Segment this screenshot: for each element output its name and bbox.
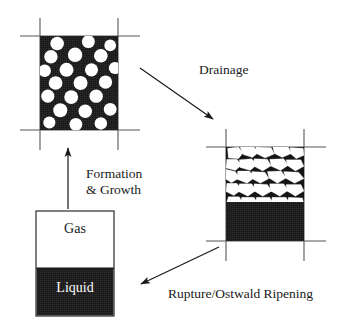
gas-label: Gas: [36, 221, 114, 237]
gas-bubble: [109, 62, 121, 74]
gas-bubble: [104, 103, 117, 116]
rupture-ostwald-label: Rupture/Ostwald Ripening: [168, 286, 313, 302]
dry-foam-drained-liquid: [226, 202, 304, 241]
formation-line-2: & Growth: [86, 182, 141, 197]
gas-bubble: [69, 118, 82, 131]
formation-growth-label: Formation& Growth: [86, 166, 142, 197]
gas-bubble: [89, 89, 102, 102]
wet-foam-panel: [20, 18, 140, 150]
gas-bubble: [38, 65, 50, 77]
gas-bubble: [82, 35, 95, 48]
gas-bubble: [104, 40, 116, 52]
gas-bubble: [64, 90, 78, 104]
drainage-label: Drainage: [199, 62, 248, 78]
dry-foam-panel: [206, 129, 326, 261]
gas-bubble: [49, 76, 63, 90]
gas-bubble: [43, 116, 55, 128]
rupture-arrow: [141, 247, 219, 284]
gas-bubble: [95, 117, 107, 129]
foam-evolution-diagram: Drainage Formation& Growth Rupture/Ostwa…: [0, 0, 345, 330]
liquid-label: Liquid: [36, 280, 114, 296]
gas-bubble: [94, 49, 108, 63]
gas-bubble: [99, 75, 112, 88]
gas-bubble: [41, 90, 54, 103]
gas-bubble: [53, 103, 67, 117]
gas-bubble: [50, 37, 64, 51]
gas-bubble: [59, 63, 73, 77]
gas-bubble: [68, 48, 82, 62]
formation-line-1: Formation: [86, 166, 142, 181]
gas-bubble: [85, 63, 98, 76]
gas-bubble: [44, 50, 57, 63]
gas-bubble: [74, 76, 88, 90]
gas-bubble: [79, 104, 92, 117]
